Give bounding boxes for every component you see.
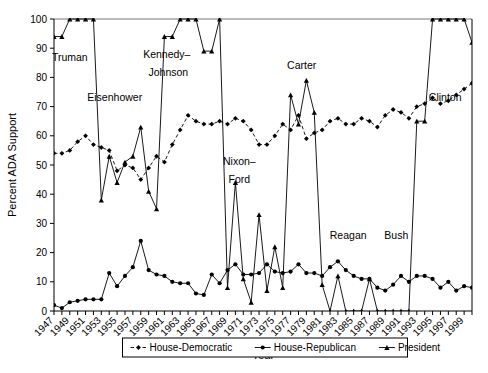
data-point-diamond	[272, 133, 277, 138]
data-point-circle	[218, 281, 222, 285]
data-point-triangle	[304, 78, 309, 83]
data-point-circle	[261, 345, 265, 349]
data-point-diamond	[375, 125, 380, 130]
data-point-circle	[115, 284, 119, 288]
data-point-triangle	[288, 93, 293, 98]
data-point-circle	[123, 274, 127, 278]
data-point-circle	[391, 283, 395, 287]
y-tick-label: 60	[36, 130, 48, 141]
annotation-label: Kennedy–	[143, 48, 190, 60]
x-tick-label: 1999	[442, 314, 466, 338]
series-line	[54, 19, 472, 311]
y-tick-label: 10	[36, 276, 48, 287]
data-point-circle	[462, 284, 466, 288]
data-point-circle	[273, 269, 277, 273]
data-point-diamond	[146, 166, 151, 171]
data-point-triangle	[312, 110, 317, 115]
data-point-diamond	[201, 122, 206, 127]
data-point-triangle	[469, 40, 474, 45]
data-point-circle	[304, 271, 308, 275]
data-point-circle	[233, 262, 237, 266]
data-point-diamond	[407, 116, 412, 121]
data-point-circle	[446, 280, 450, 284]
data-point-diamond	[233, 116, 238, 121]
data-point-triangle	[146, 189, 151, 194]
y-axis-title: Percent ADA Support	[6, 113, 18, 217]
data-point-circle	[202, 293, 206, 297]
data-point-circle	[76, 299, 80, 303]
data-point-triangle	[114, 180, 119, 185]
data-point-diamond	[209, 122, 214, 127]
data-point-circle	[68, 300, 72, 304]
data-point-diamond	[170, 142, 175, 147]
data-point-diamond	[91, 142, 96, 147]
data-point-circle	[344, 268, 348, 272]
y-axis: 0102030405060708090100Percent ADA Suppor…	[6, 14, 54, 317]
data-point-triangle	[280, 285, 285, 290]
data-point-diamond	[178, 128, 183, 133]
data-point-diamond	[351, 122, 356, 127]
data-point-triangle	[296, 122, 301, 127]
data-point-triangle	[225, 285, 230, 290]
data-point-diamond	[99, 145, 104, 150]
data-point-circle	[415, 274, 419, 278]
data-point-circle	[289, 269, 293, 273]
data-point-diamond	[225, 122, 230, 127]
annotations: TrumanEisenhowerKennedy–JohnsonNixon–For…	[52, 48, 462, 241]
data-point-diamond	[241, 119, 246, 124]
data-point-triangle	[138, 125, 143, 130]
data-point-triangle	[99, 198, 104, 203]
data-point-circle	[383, 288, 387, 292]
y-tick-label: 70	[36, 101, 48, 112]
data-point-circle	[91, 297, 95, 301]
annotation-label: Eisenhower	[87, 91, 142, 103]
data-point-circle	[147, 268, 151, 272]
data-point-diamond	[52, 151, 57, 156]
data-point-circle	[312, 271, 316, 275]
data-point-circle	[131, 265, 135, 269]
data-point-circle	[281, 271, 285, 275]
legend-label-2: President	[398, 342, 440, 353]
data-point-triangle	[130, 154, 135, 159]
data-point-circle	[60, 306, 64, 310]
data-point-circle	[139, 239, 143, 243]
data-point-diamond	[59, 151, 64, 156]
data-point-triangle	[272, 244, 277, 249]
data-point-diamond	[257, 142, 262, 147]
data-point-diamond	[328, 119, 333, 124]
data-point-circle	[352, 274, 356, 278]
data-point-circle	[154, 272, 158, 276]
annotation-label: Truman	[52, 51, 88, 63]
data-point-circle	[210, 272, 214, 276]
data-point-triangle	[335, 274, 340, 279]
data-point-circle	[430, 277, 434, 281]
annotation-label: Nixon–	[223, 155, 256, 167]
data-point-diamond	[83, 133, 88, 138]
data-point-circle	[399, 274, 403, 278]
data-point-circle	[423, 274, 427, 278]
data-point-triangle	[241, 276, 246, 281]
data-point-circle	[99, 297, 103, 301]
legend-label-0: House-Democratic	[150, 342, 233, 353]
data-point-circle	[265, 262, 269, 266]
annotation-label: Johnson	[149, 66, 189, 78]
annotation-label: Clinton	[429, 91, 462, 103]
y-tick-label: 80	[36, 72, 48, 83]
data-point-diamond	[359, 116, 364, 121]
data-point-circle	[375, 286, 379, 290]
data-point-triangle	[264, 288, 269, 293]
data-point-circle	[359, 277, 363, 281]
data-point-triangle	[256, 212, 261, 217]
data-point-circle	[162, 274, 166, 278]
data-point-circle	[470, 286, 474, 290]
data-point-diamond	[265, 142, 270, 147]
data-point-diamond	[343, 122, 348, 127]
data-point-triangle	[154, 206, 159, 211]
annotation-label: Bush	[384, 229, 408, 241]
data-point-circle	[52, 303, 56, 307]
annotation-label: Ford	[229, 173, 251, 185]
data-point-diamond	[138, 177, 143, 182]
data-point-circle	[186, 281, 190, 285]
data-point-circle	[328, 265, 332, 269]
data-point-diamond	[414, 104, 419, 109]
